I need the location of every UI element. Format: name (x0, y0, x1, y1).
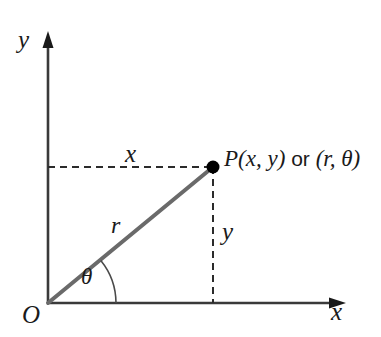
angle-arc (101, 261, 116, 304)
point-p-marker (207, 161, 220, 174)
point-polar-pair: (r, θ) (316, 146, 361, 171)
point-cartesian-pair: (x, y) (238, 146, 285, 171)
origin-label: O (22, 302, 40, 327)
y-axis-label: y (18, 27, 29, 52)
point-p-label: P(x, y) or (r, θ) (224, 147, 360, 170)
radius-ray (48, 167, 213, 303)
y-axis-arrowhead (43, 31, 54, 48)
radius-label: r (111, 213, 120, 237)
horizontal-leg-label: x (125, 141, 136, 166)
polar-coordinates-figure: y x O x y r θ P(x, y) or (r, θ) (0, 0, 381, 337)
vertical-leg-label: y (222, 219, 233, 244)
x-axis-label: x (331, 299, 342, 324)
x-axis (48, 298, 346, 309)
point-conjunction-word: or (291, 147, 310, 170)
point-p-letter: P (224, 146, 238, 171)
angle-theta-label: θ (81, 265, 92, 288)
